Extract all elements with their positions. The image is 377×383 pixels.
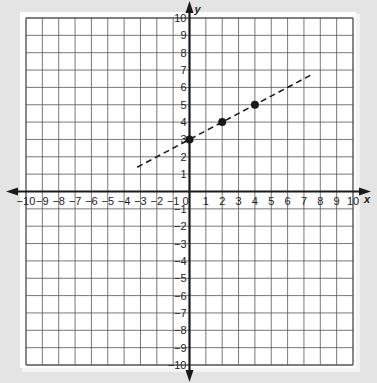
y-tick-label: 10 bbox=[174, 12, 186, 24]
y-tick-label: −5 bbox=[174, 272, 187, 284]
x-tick-label: 6 bbox=[285, 195, 291, 207]
x-tick-label: 1 bbox=[203, 195, 209, 207]
x-tick-label: 10 bbox=[347, 195, 359, 207]
y-axis-down-arrow-icon bbox=[186, 370, 194, 382]
y-tick-label: −4 bbox=[174, 255, 187, 267]
x-tick-label: 4 bbox=[252, 195, 258, 207]
y-tick-label: 1 bbox=[180, 168, 186, 180]
y-axis-label: y bbox=[194, 3, 202, 15]
x-tick-label: −4 bbox=[118, 195, 131, 207]
x-tick-label: −7 bbox=[69, 195, 82, 207]
x-tick-label: 8 bbox=[317, 195, 323, 207]
y-axis-up-arrow-icon bbox=[186, 1, 194, 13]
y-tick-label: 4 bbox=[180, 116, 186, 128]
paper bbox=[20, 12, 356, 368]
y-tick-label: −6 bbox=[174, 290, 187, 302]
y-tick-label: 5 bbox=[180, 99, 186, 111]
y-tick-label: −7 bbox=[174, 307, 187, 319]
x-tick-label: −5 bbox=[101, 195, 114, 207]
x-tick-label: −10 bbox=[17, 195, 36, 207]
x-tick-label: 2 bbox=[219, 195, 225, 207]
data-point bbox=[251, 101, 259, 109]
x-tick-label: −2 bbox=[151, 195, 164, 207]
x-tick-label: 9 bbox=[334, 195, 340, 207]
data-point bbox=[218, 118, 226, 126]
y-tick-label: −10 bbox=[168, 359, 187, 371]
x-tick-label: 7 bbox=[301, 195, 307, 207]
coordinate-plane: xy −10−9−8−7−6−5−4−3−2−1012345678910−10−… bbox=[0, 0, 377, 383]
y-tick-label: 8 bbox=[180, 47, 186, 59]
y-tick-label: 6 bbox=[180, 81, 186, 93]
y-tick-label: −9 bbox=[174, 342, 187, 354]
x-axis-label: x bbox=[363, 193, 371, 205]
x-tick-label: 3 bbox=[235, 195, 241, 207]
data-point bbox=[186, 135, 194, 143]
y-tick-label: 2 bbox=[180, 151, 186, 163]
x-tick-label: −8 bbox=[52, 195, 65, 207]
y-tick-label: −1 bbox=[174, 203, 187, 215]
x-tick-label: −9 bbox=[36, 195, 49, 207]
y-tick-label: 7 bbox=[180, 64, 186, 76]
y-tick-label: −8 bbox=[174, 324, 187, 336]
y-tick-label: −3 bbox=[174, 238, 187, 250]
x-tick-label: 5 bbox=[268, 195, 274, 207]
x-tick-label: −3 bbox=[134, 195, 147, 207]
y-tick-label: 9 bbox=[180, 29, 186, 41]
x-tick-label: −6 bbox=[85, 195, 98, 207]
y-tick-label: −2 bbox=[174, 220, 187, 232]
